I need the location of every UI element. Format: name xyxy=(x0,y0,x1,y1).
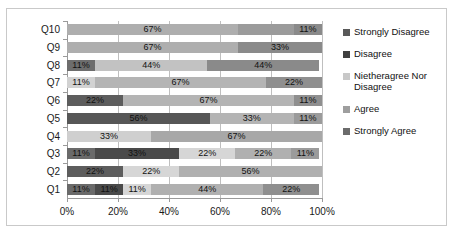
bar-segment-value-label: 33% xyxy=(243,114,261,123)
bar-segment-Q10-1[interactable]: 67% xyxy=(67,24,238,35)
bar-segment-value-label: 67% xyxy=(143,25,161,34)
bar-row-Q7[interactable]: 11%67%22% xyxy=(67,77,322,88)
bar-segment-Q2-2[interactable]: 22% xyxy=(123,166,179,177)
bar-segment-Q7-1[interactable]: 11% xyxy=(67,77,95,88)
bar-segment-Q8-3[interactable]: 44% xyxy=(207,60,319,71)
bar-segment-value-label: 44% xyxy=(198,185,216,194)
bar-row-Q2[interactable]: 22%22%56% xyxy=(67,166,322,177)
bar-segment-value-label: 56% xyxy=(129,114,147,123)
bar-segment-value-label: 44% xyxy=(142,61,160,70)
y-tick-Q8 xyxy=(63,56,67,57)
bar-segment-value-label: 33% xyxy=(128,149,146,158)
bar-segment-Q5-2[interactable]: 33% xyxy=(210,113,294,124)
plot-region: Q1067%11%Q967%33%Q811%44%44%Q711%67%22%Q… xyxy=(29,15,325,219)
y-tick-Q5 xyxy=(63,110,67,111)
y-axis-label-Q3: Q3 xyxy=(24,149,60,159)
bar-segment-value-label: 56% xyxy=(242,167,260,176)
legend-label: Strongly Disagree xyxy=(354,27,430,38)
bar-segment-value-label: 22% xyxy=(282,185,300,194)
legend-item-2[interactable]: Disagree xyxy=(343,49,447,60)
bar-row-Q4[interactable]: 33%67% xyxy=(67,131,322,142)
bar-segment-Q6-2[interactable]: 67% xyxy=(123,95,294,106)
legend-label: Disagree xyxy=(354,49,392,60)
y-tick-Q4 xyxy=(63,127,67,128)
bar-row-Q8[interactable]: 11%44%44% xyxy=(67,60,322,71)
x-tick-100 xyxy=(322,198,323,202)
bar-row-Q3[interactable]: 11%33%22%22%11% xyxy=(67,148,322,159)
bar-segment-value-label: 33% xyxy=(100,132,118,141)
bar-segment-value-label: 11% xyxy=(72,149,89,158)
bar-segment-Q3-2[interactable]: 33% xyxy=(95,148,179,159)
bar-row-Q5[interactable]: 56%33%11% xyxy=(67,113,322,124)
bar-segment-Q3-1[interactable]: 11% xyxy=(67,148,95,159)
bar-segment-value-label: 22% xyxy=(142,167,160,176)
y-tick-Q2 xyxy=(63,163,67,164)
gridline-100 xyxy=(322,21,323,198)
x-axis-label-100: 100% xyxy=(302,207,342,217)
bar-segment-value-label: 67% xyxy=(200,96,218,105)
bar-segment-value-label: 11% xyxy=(299,96,316,105)
x-axis-label-20: 20% xyxy=(98,207,138,217)
bar-segment-value-label: 11% xyxy=(100,185,117,194)
x-axis-label-40: 40% xyxy=(149,207,189,217)
bar-segment-Q7-2[interactable]: 67% xyxy=(95,77,266,88)
y-tick-Q10 xyxy=(63,21,67,22)
bar-segment-value-label: 22% xyxy=(285,78,303,87)
bar-segment-Q9-1[interactable]: 67% xyxy=(67,42,238,53)
bar-segment-Q3-4[interactable]: 22% xyxy=(235,148,291,159)
y-tick-Q7 xyxy=(63,74,67,75)
bar-segment-value-label: 11% xyxy=(72,185,89,194)
bar-segment-Q2-1[interactable]: 22% xyxy=(67,166,123,177)
legend-item-4[interactable]: Agree xyxy=(343,104,447,115)
legend-swatch-icon xyxy=(343,128,350,135)
bar-segment-value-label: 22% xyxy=(254,149,272,158)
bar-segment-Q8-2[interactable]: 44% xyxy=(95,60,207,71)
bar-segment-Q1-2[interactable]: 11% xyxy=(95,184,123,195)
bar-row-Q6[interactable]: 22%67%11% xyxy=(67,95,322,106)
bar-row-Q1[interactable]: 11%11%11%44%22% xyxy=(67,184,322,195)
x-axis-label-80: 80% xyxy=(251,207,291,217)
bar-segment-value-label: 67% xyxy=(171,78,189,87)
legend-item-3[interactable]: Nietheragree Nor Disagree xyxy=(343,71,447,93)
bar-segment-Q3-5[interactable]: 11% xyxy=(291,148,319,159)
x-tick-20 xyxy=(118,198,119,202)
y-axis-label-Q9: Q9 xyxy=(24,43,60,53)
bar-segment-value-label: 11% xyxy=(299,25,316,34)
bar-segment-Q7-3[interactable]: 22% xyxy=(266,77,322,88)
bar-segment-value-label: 44% xyxy=(254,61,272,70)
bar-segment-Q4-1[interactable]: 33% xyxy=(67,131,151,142)
bar-segment-Q1-4[interactable]: 44% xyxy=(151,184,263,195)
bar-segment-Q1-3[interactable]: 11% xyxy=(123,184,151,195)
legend-label: Agree xyxy=(354,104,379,115)
bar-segment-Q3-3[interactable]: 22% xyxy=(179,148,235,159)
y-tick-Q3 xyxy=(63,145,67,146)
bar-segment-Q10-2[interactable] xyxy=(238,24,294,35)
legend-item-5[interactable]: Strongly Agree xyxy=(343,126,447,137)
bar-segment-Q10-3[interactable]: 11% xyxy=(294,24,322,35)
bar-segment-Q1-5[interactable]: 22% xyxy=(263,184,319,195)
legend-label: Strongly Agree xyxy=(354,126,416,137)
bar-segment-Q2-3[interactable]: 56% xyxy=(179,166,322,177)
bar-segment-Q6-1[interactable]: 22% xyxy=(67,95,123,106)
plot-area: Q1067%11%Q967%33%Q811%44%44%Q711%67%22%Q… xyxy=(67,21,322,198)
x-axis-line xyxy=(67,198,323,199)
bar-segment-Q8-1[interactable]: 11% xyxy=(67,60,95,71)
bar-segment-Q4-2[interactable]: 67% xyxy=(151,131,322,142)
bar-segment-Q6-3[interactable]: 11% xyxy=(294,95,322,106)
chart-frame: Q1067%11%Q967%33%Q811%44%44%Q711%67%22%Q… xyxy=(6,8,447,226)
bar-segment-Q9-2[interactable]: 33% xyxy=(238,42,322,53)
x-tick-0 xyxy=(67,198,68,202)
bar-segment-Q5-3[interactable]: 11% xyxy=(294,113,322,124)
legend-swatch-icon xyxy=(343,29,350,36)
y-axis-label-Q10: Q10 xyxy=(24,25,60,35)
y-tick-Q6 xyxy=(63,92,67,93)
chart-legend: Strongly DisagreeDisagreeNietheragree No… xyxy=(343,27,447,148)
bar-segment-value-label: 22% xyxy=(198,149,216,158)
legend-item-1[interactable]: Strongly Disagree xyxy=(343,27,447,38)
y-tick-Q9 xyxy=(63,39,67,40)
bar-row-Q10[interactable]: 67%11% xyxy=(67,24,322,35)
bar-row-Q9[interactable]: 67%33% xyxy=(67,42,322,53)
bar-segment-value-label: 67% xyxy=(143,43,161,52)
bar-segment-Q5-1[interactable]: 56% xyxy=(67,113,210,124)
bar-segment-Q1-1[interactable]: 11% xyxy=(67,184,95,195)
